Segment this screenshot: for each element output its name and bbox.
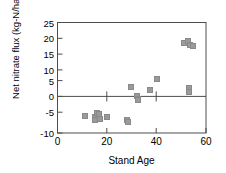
data-point <box>186 89 192 95</box>
y-axis-title-wrap: Net nitrate flux (kg-N/ha/y) <box>2 12 18 132</box>
data-point <box>125 119 131 125</box>
data-point <box>97 116 103 122</box>
x-tick-label: 0 <box>45 136 71 147</box>
data-point <box>82 113 88 119</box>
data-point <box>128 84 134 90</box>
data-point <box>190 43 196 49</box>
y-tick-label: -5 <box>28 107 54 118</box>
data-point <box>154 76 160 82</box>
y-tick-label: 20 <box>28 33 54 44</box>
x-tick-label: 40 <box>143 136 169 147</box>
y-tick-label: 10 <box>28 64 54 75</box>
y-axis-title: Net nitrate flux (kg-N/ha/y) <box>10 0 21 109</box>
y-tick-label: 25 <box>28 17 54 28</box>
y-tick-labels: 25 20 15 10 5 0 -5 -10 <box>24 0 54 173</box>
x-tick-label: 60 <box>193 136 219 147</box>
y-tick-label: 5 <box>28 75 54 86</box>
data-point <box>147 87 153 93</box>
x-tick-label: 20 <box>94 136 120 147</box>
y-tick-label: 15 <box>28 49 54 60</box>
scatter-chart: 25 20 15 10 5 0 -5 -10 0 20 40 60 Net ni… <box>0 0 226 173</box>
data-point <box>135 97 141 103</box>
x-axis-title: Stand Age <box>57 155 206 166</box>
y-tick-label: 0 <box>28 91 54 102</box>
data-point <box>104 114 110 120</box>
